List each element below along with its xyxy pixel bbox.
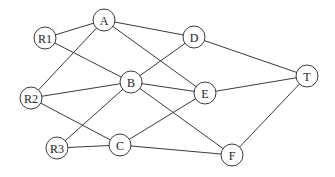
node-label: A	[100, 14, 109, 28]
node-label: D	[190, 31, 199, 45]
node-label: E	[201, 87, 208, 101]
node-label: B	[127, 76, 135, 90]
edge-a-d	[104, 20, 194, 37]
edge-r1-b	[45, 38, 131, 82]
network-graph: AR1DBR2ETR3CF	[0, 0, 335, 177]
node-e: E	[194, 82, 216, 104]
edge-f-t	[232, 76, 307, 155]
node-c: C	[109, 134, 131, 156]
node-label: C	[116, 139, 124, 153]
node-b: B	[120, 71, 142, 93]
edge-d-t	[194, 37, 307, 76]
edge-r2-c	[31, 98, 120, 145]
node-label: F	[229, 149, 236, 163]
edges-layer	[31, 20, 307, 155]
node-label: R1	[38, 32, 52, 46]
node-a: A	[93, 9, 115, 31]
node-t: T	[296, 65, 318, 87]
node-d: D	[183, 26, 205, 48]
node-label: R2	[24, 92, 38, 106]
node-r3: R3	[46, 137, 68, 159]
edge-c-f	[120, 145, 232, 155]
node-r2: R2	[20, 87, 42, 109]
edge-e-t	[205, 76, 307, 93]
edge-c-e	[120, 93, 205, 145]
node-label: T	[303, 70, 311, 84]
edge-b-d	[131, 37, 194, 82]
node-r1: R1	[34, 27, 56, 49]
node-label: R3	[50, 142, 64, 156]
node-f: F	[221, 144, 243, 166]
edge-b-f	[131, 82, 232, 155]
